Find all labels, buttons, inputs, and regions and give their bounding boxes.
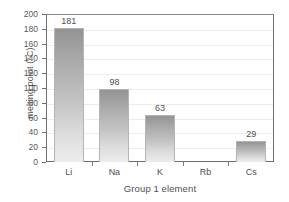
x-axis-tick-mark	[92, 162, 93, 166]
bar[interactable]	[145, 115, 175, 162]
bar-slot: 181	[46, 14, 92, 162]
x-axis-title: Group 1 element	[46, 183, 274, 194]
bar-slot: 98	[92, 14, 138, 162]
y-axis-tick-label: 40	[12, 128, 38, 137]
bar-slot: 29	[228, 14, 274, 162]
bar[interactable]	[99, 89, 129, 162]
x-axis-tick-label: Li	[47, 167, 91, 178]
bar-value-label: 29	[246, 130, 256, 139]
x-axis-tick-mark	[228, 162, 229, 166]
bar-chart: melting point (°C) 200180160140120100806…	[0, 0, 289, 202]
bar-slot: 63	[137, 14, 183, 162]
bar-value-label: 63	[155, 104, 165, 113]
y-axis-tick-label: 20	[12, 143, 38, 152]
y-axis-tick-label: 200	[12, 10, 38, 19]
y-axis-tick-label: 0	[12, 158, 38, 167]
x-axis-tick-mark	[183, 162, 184, 166]
y-axis-tick-label: 120	[12, 69, 38, 78]
bar-value-label: 98	[109, 78, 119, 87]
x-axis-tick-labels: LiNaKRbCs	[46, 167, 274, 181]
bars-layer: 181986329	[46, 14, 274, 162]
y-axis-tick-label: 180	[12, 25, 38, 34]
x-axis-tick-label: Na	[92, 167, 136, 178]
y-axis-tick-label: 60	[12, 114, 38, 123]
y-axis-tick-label: 160	[12, 40, 38, 49]
bar-slot	[183, 14, 229, 162]
x-axis-tick-label: Cs	[229, 167, 273, 178]
bar-value-label: 181	[61, 17, 76, 26]
bar[interactable]	[54, 28, 84, 162]
y-axis-tick-label: 100	[12, 84, 38, 93]
x-axis-tick-label: K	[138, 167, 182, 178]
bar[interactable]	[236, 141, 266, 162]
x-axis-tick-mark	[137, 162, 138, 166]
x-axis-tick-label: Rb	[184, 167, 228, 178]
y-axis-tick-label: 80	[12, 99, 38, 108]
y-axis-tick-label: 140	[12, 54, 38, 63]
